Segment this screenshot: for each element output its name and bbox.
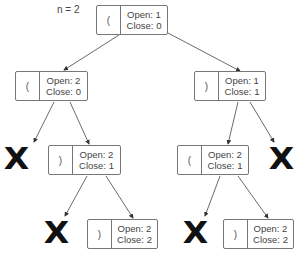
close-count: Close: 0	[127, 20, 162, 31]
node-l2-right: ( Open: 2Close: 1	[177, 145, 249, 175]
close-count: Close: 2	[253, 234, 288, 245]
node-l1-right: ) Open: 1Close: 1	[194, 71, 266, 101]
close-count: Close: 0	[46, 86, 81, 97]
close-count: Close: 1	[79, 160, 114, 171]
node-l2-left: ) Open: 2Close: 1	[48, 145, 121, 175]
node-char: (	[97, 6, 121, 34]
node-l3-left: ) Open: 2Close: 2	[87, 219, 158, 249]
close-count: Close: 2	[117, 234, 152, 245]
pruned-x-icon: X	[4, 147, 29, 171]
node-root: ( Open: 1Close: 0	[96, 5, 168, 35]
node-char: )	[195, 72, 219, 100]
open-count: Open: 2	[118, 223, 152, 234]
open-count: Open: 1	[127, 9, 161, 20]
close-count: Close: 1	[225, 86, 260, 97]
node-l1-left: ( Open: 2Close: 0	[15, 71, 88, 101]
node-char: (	[16, 72, 40, 100]
pruned-x-icon: X	[44, 221, 69, 245]
node-char: (	[178, 146, 202, 174]
pruned-x-icon: X	[269, 147, 294, 171]
pruned-x-icon: X	[183, 221, 208, 245]
open-count: Open: 2	[254, 223, 288, 234]
n-label: n = 2	[57, 4, 80, 15]
open-count: Open: 1	[225, 75, 259, 86]
node-char: )	[88, 220, 112, 248]
open-count: Open: 2	[80, 149, 114, 160]
node-char: )	[224, 220, 248, 248]
node-l3-right: ) Open: 2Close: 2	[223, 219, 294, 249]
open-count: Open: 2	[47, 75, 81, 86]
open-count: Open: 2	[208, 149, 242, 160]
node-char: )	[49, 146, 73, 174]
close-count: Close: 1	[208, 160, 243, 171]
